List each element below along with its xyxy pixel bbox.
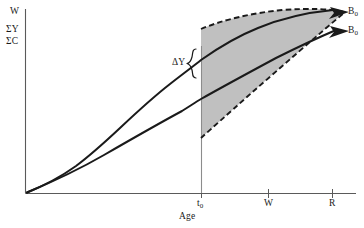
curve-label-upper-b0: B0 [348,7,358,17]
x-axis-title: Age [179,212,195,222]
x-tick-label-r: R [329,199,336,209]
curve-label-lower-b0-text: B [348,25,355,35]
y-axis-label-sum-y: ΣY [6,25,19,35]
curve-label-upper-b0-text: B [348,6,355,16]
delta-y-label: ΔY [172,58,185,68]
curve-label-upper-b0-subscript: 0 [355,10,359,18]
lifecycle-diagram-figure: W ΣY ΣC ΔY B0 B0 t0 W R Age [0,0,364,228]
delta-y-brace [187,49,196,78]
diagram-canvas [0,0,364,228]
curve-label-lower-b0: B0 [348,26,358,36]
y-axis-label-sum-c: ΣC [6,37,18,47]
x-tick-label-w: W [264,199,273,209]
x-tick-label-t0-subscript: 0 [200,202,204,210]
curve-label-lower-b0-subscript: 0 [355,29,359,37]
y-axis-label-w: W [10,7,19,17]
x-tick-label-t0: t0 [197,199,204,209]
